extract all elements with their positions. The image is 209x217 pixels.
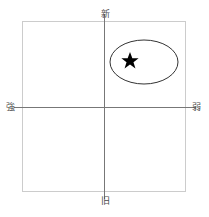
axis-label-top: 新 [99, 9, 111, 19]
axis-label-left: 強 [4, 102, 16, 112]
positioning-matrix-diagram [0, 0, 209, 217]
axis-label-bottom: 旧 [99, 196, 111, 206]
axis-label-right: 弱 [190, 102, 202, 112]
